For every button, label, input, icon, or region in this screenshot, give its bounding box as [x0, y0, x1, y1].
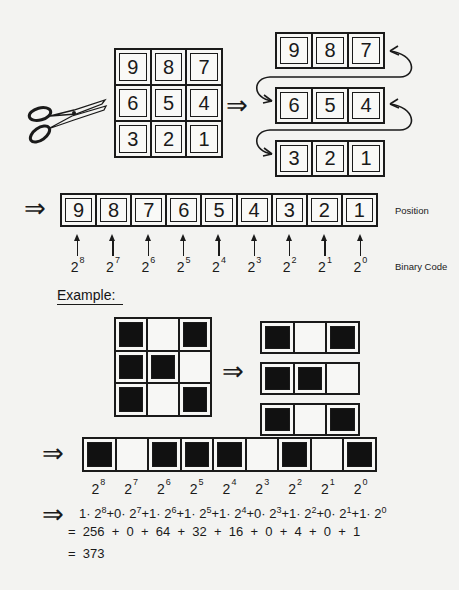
- result-line: = 373: [68, 546, 105, 561]
- example-heading: Example:: [57, 287, 123, 305]
- position-cell: 9: [61, 194, 96, 226]
- position-cell: 8: [96, 194, 131, 226]
- position-cell: 6: [166, 194, 201, 226]
- power-of-two-label: 20: [354, 480, 368, 497]
- filled-square: [265, 367, 290, 390]
- bit-cell: [147, 383, 179, 416]
- cell-number: 7: [190, 53, 218, 81]
- bit-cell: [294, 322, 327, 353]
- power-of-two-label: 26: [157, 480, 171, 497]
- power-of-two-label: 25: [190, 480, 204, 497]
- filled-square: [119, 322, 143, 347]
- power-of-two-label: 21: [321, 480, 335, 497]
- grid-cell: 6: [115, 85, 151, 121]
- cell-number: 9: [119, 53, 147, 81]
- implies-arrow: ⇒: [226, 92, 248, 118]
- up-arrow-icon: [218, 240, 220, 256]
- up-arrow-icon: [148, 240, 150, 256]
- filled-square: [87, 442, 112, 467]
- position-cell: 1: [342, 194, 377, 226]
- power-of-two-label: 20: [353, 258, 367, 275]
- up-arrow-icon: [360, 240, 362, 256]
- power-of-two-label: 23: [247, 258, 261, 275]
- cell-number: 3: [276, 198, 303, 222]
- bit-cell: [115, 351, 147, 384]
- bit-cell: [115, 318, 147, 351]
- example-row-3: [260, 403, 360, 436]
- power-of-two-label: 27: [124, 480, 138, 497]
- filled-square: [183, 322, 207, 347]
- position-cell: 5: [201, 194, 236, 226]
- example-row-1: [260, 321, 360, 354]
- bit-cell: [246, 438, 279, 471]
- filled-square: [298, 367, 323, 390]
- bit-cell: [261, 404, 294, 435]
- filled-square: [152, 442, 177, 467]
- bit-cell: [261, 322, 294, 353]
- position-strip: 987654321: [60, 193, 378, 227]
- filled-square: [282, 442, 307, 467]
- power-of-two-label: 22: [288, 480, 302, 497]
- implies-arrow: ⇒: [24, 195, 46, 221]
- cell-number: 1: [346, 198, 373, 222]
- cell-number: 9: [65, 198, 92, 222]
- cell-number: 1: [190, 125, 218, 153]
- bit-cell: [326, 363, 359, 394]
- cell-number: 8: [155, 53, 183, 81]
- position-label: Position: [395, 205, 429, 216]
- filled-square: [265, 408, 290, 431]
- cell-number: 5: [205, 198, 232, 222]
- bit-cell: [147, 318, 179, 351]
- power-of-two-label: 25: [177, 258, 191, 275]
- power-of-two-label: 22: [283, 258, 297, 275]
- bit-cell: [261, 363, 294, 394]
- cell-number: 4: [190, 89, 218, 117]
- filled-square: [330, 326, 355, 349]
- cell-number: 2: [311, 198, 338, 222]
- up-arrow-icon: [324, 240, 326, 256]
- implies-arrow: ⇒: [42, 501, 64, 527]
- bit-cell: [179, 318, 211, 351]
- power-of-two-label: 21: [318, 258, 332, 275]
- example-grid-3x3: [114, 317, 212, 417]
- position-cell: 7: [131, 194, 166, 226]
- up-arrow-icon: [77, 240, 79, 256]
- power-of-two-label: 24: [212, 258, 226, 275]
- implies-arrow: ⇒: [42, 440, 64, 466]
- filled-square: [347, 442, 372, 467]
- power-of-two-label: 27: [106, 258, 120, 275]
- cell-number: 4: [241, 198, 268, 222]
- bit-cell: [83, 438, 116, 471]
- filled-square: [217, 442, 242, 467]
- up-arrow-icon: [289, 240, 291, 256]
- up-arrow-icon: [254, 240, 256, 256]
- grid-cell: 9: [115, 49, 151, 85]
- cell-number: 5: [155, 89, 183, 117]
- grid-cell: 7: [186, 49, 222, 85]
- filled-square: [119, 387, 143, 412]
- power-of-two-label: 23: [255, 480, 269, 497]
- cell-number: 2: [155, 125, 183, 153]
- power-of-two-label: 28: [71, 258, 85, 275]
- position-cell: 4: [237, 194, 272, 226]
- bit-cell: [147, 351, 179, 384]
- cell-number: 6: [170, 198, 197, 222]
- power-of-two-label: 26: [141, 258, 155, 275]
- bit-cell: [311, 438, 344, 471]
- example-row-2: [260, 362, 360, 395]
- power-of-two-label: 28: [91, 480, 105, 497]
- bit-cell: [326, 404, 359, 435]
- bit-cell: [326, 322, 359, 353]
- filled-square: [183, 387, 207, 412]
- bit-cell: [179, 383, 211, 416]
- binary-code-label: Binary Code: [395, 261, 447, 272]
- grid-cell: 2: [151, 121, 187, 157]
- grid-cell: 8: [151, 49, 187, 85]
- up-arrow-icon: [112, 240, 114, 256]
- bit-cell: [115, 383, 147, 416]
- grid-cell: 3: [115, 121, 151, 157]
- bit-cell: [213, 438, 246, 471]
- bit-cell: [116, 438, 149, 471]
- grid-cell: 5: [151, 85, 187, 121]
- bit-cell: [179, 351, 211, 384]
